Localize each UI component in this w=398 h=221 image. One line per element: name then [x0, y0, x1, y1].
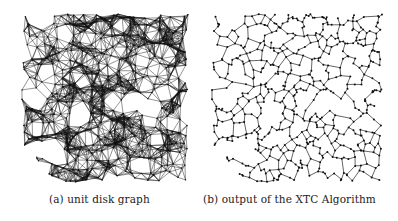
unit-disk-graph-panel	[20, 12, 190, 184]
caption-unit-disk-graph: (a) unit disk graph	[49, 193, 150, 205]
xtc-output-panel	[210, 12, 384, 184]
caption-xtc-output: (b) output of the XTC Algorithm	[203, 193, 376, 205]
unit-disk-graph-plot	[20, 12, 190, 184]
xtc-output-graph-plot	[210, 12, 384, 184]
